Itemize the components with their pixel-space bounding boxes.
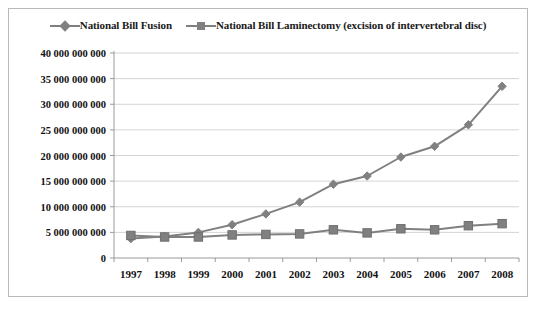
data-point-marker xyxy=(228,231,236,239)
x-axis-tick-label: 2004 xyxy=(356,268,378,280)
series-line xyxy=(131,86,502,238)
x-axis-tick-label: 2007 xyxy=(457,268,479,280)
y-axis-tick-label: 10 000 000 000 xyxy=(9,201,106,212)
chart-frame: National Bill Fusion National Bill Lamin… xyxy=(8,8,528,297)
data-point-marker xyxy=(363,229,371,237)
x-axis-tick-label: 2001 xyxy=(255,268,277,280)
x-axis-tick-label: 2000 xyxy=(221,268,243,280)
y-axis-tick-label: 15 000 000 000 xyxy=(9,176,106,187)
data-point-marker xyxy=(498,219,506,227)
x-axis-ticks xyxy=(114,258,519,262)
x-axis-tick-label: 2002 xyxy=(289,268,311,280)
x-axis-tick-label: 1999 xyxy=(187,268,209,280)
data-point-marker xyxy=(397,225,405,233)
series-line xyxy=(131,224,502,237)
data-point-marker xyxy=(228,220,236,228)
y-axis-tick-label: 20 000 000 000 xyxy=(9,150,106,161)
x-axis-tick-label: 1997 xyxy=(120,268,142,280)
data-series-layer xyxy=(127,82,507,243)
data-point-marker xyxy=(329,226,337,234)
data-point-marker xyxy=(363,172,371,180)
x-axis-tick-label: 2003 xyxy=(322,268,344,280)
data-point-marker xyxy=(127,231,135,239)
y-axis-tick-label: 0 xyxy=(9,253,106,264)
data-point-marker xyxy=(160,233,168,241)
data-point-marker xyxy=(194,233,202,241)
series-laminectomy xyxy=(127,219,507,241)
data-point-marker xyxy=(262,230,270,238)
y-axis-ticks xyxy=(110,53,114,258)
data-point-marker xyxy=(295,230,303,238)
gridlines xyxy=(114,53,519,232)
plot-area: 05 000 000 00010 000 000 00015 000 000 0… xyxy=(9,9,527,296)
series-fusion xyxy=(127,82,507,243)
y-axis-tick-label: 35 000 000 000 xyxy=(9,73,106,84)
x-axis-tick-label: 2006 xyxy=(424,268,446,280)
data-point-marker xyxy=(430,226,438,234)
y-axis-tick-label: 5 000 000 000 xyxy=(9,227,106,238)
x-axis-tick-label: 2005 xyxy=(390,268,412,280)
data-point-marker xyxy=(262,210,270,218)
data-point-marker xyxy=(295,198,303,206)
data-point-marker xyxy=(397,153,405,161)
y-axis-tick-label: 25 000 000 000 xyxy=(9,124,106,135)
y-axis-tick-label: 40 000 000 000 xyxy=(9,48,106,59)
x-axis-tick-label: 1998 xyxy=(154,268,176,280)
x-axis-tick-label: 2008 xyxy=(491,268,513,280)
data-point-marker xyxy=(464,222,472,230)
y-axis-tick-label: 30 000 000 000 xyxy=(9,99,106,110)
